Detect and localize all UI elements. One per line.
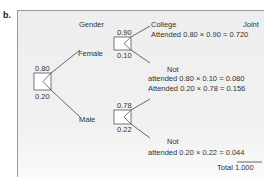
joint-value: 0.156 <box>226 84 245 93</box>
outcome-male-attended: Attended 0.20 × 0.78 = 0.156 <box>148 84 245 93</box>
prob-female: 0.80 <box>35 64 50 73</box>
outcome-female-not-top: Not <box>167 65 179 74</box>
branch-male-attended <box>131 99 150 110</box>
prob-male-not: 0.22 <box>117 125 132 134</box>
outcome-female-attended: Attended 0.80 × 0.90 = 0.720 <box>151 30 248 39</box>
label-female: Female <box>78 49 103 58</box>
header-college: College <box>151 20 176 29</box>
total-label: Total <box>217 163 233 172</box>
outcome-female-not: attended 0.80 × 0.10 = 0.080 <box>148 74 244 83</box>
branch-male-not <box>131 124 150 138</box>
joint-value: 0.080 <box>226 74 245 83</box>
total-row: Total 1.000 <box>217 163 254 172</box>
prob-female-attended: 0.90 <box>117 28 132 37</box>
branch-female-not <box>131 50 150 63</box>
branch-female-attended <box>131 26 150 37</box>
joint-value: 0.720 <box>229 30 248 39</box>
branch-male <box>51 90 80 117</box>
branch-female <box>51 50 80 73</box>
joint-value: 0.044 <box>226 148 245 157</box>
prob-male-attended: 0.78 <box>117 101 132 110</box>
header-gender: Gender <box>79 20 104 29</box>
outcome-male-not-top: Not <box>167 137 179 146</box>
header-joint: Joint <box>243 20 259 29</box>
label-male: Male <box>79 115 95 124</box>
total-value: 1.000 <box>235 163 254 172</box>
outcome-male-not: attended 0.20 × 0.22 = 0.044 <box>148 148 244 157</box>
prob-female-not: 0.10 <box>117 51 132 60</box>
prob-male: 0.20 <box>35 92 50 101</box>
